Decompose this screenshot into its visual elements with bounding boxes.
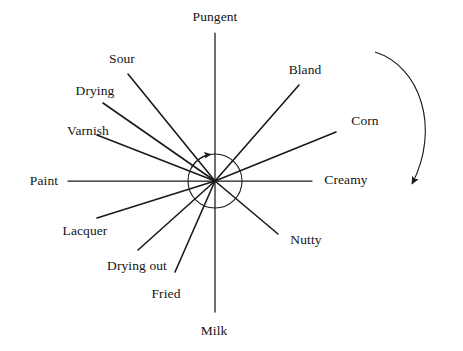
spoke-line-sour [128,74,215,181]
axis-label-pungent: Pungent [193,10,238,24]
axis-label-paint: Paint [30,174,58,188]
axis-label-sour: Sour [109,52,135,66]
spoke-line-lacquer [97,181,215,218]
clockwise-rotation-arrow-icon [375,52,425,184]
axis-label-milk: Milk [201,324,228,338]
spoke-line-nutty [215,181,278,234]
axis-label-fried: Fried [152,287,181,301]
axis-label-corn: Corn [351,114,378,128]
diagram-canvas [0,0,463,351]
spoke-line-corn [215,132,336,181]
spoke-line-bland [215,85,299,181]
axis-label-drying-out: Drying out [107,259,167,273]
axis-label-lacquer: Lacquer [63,224,108,238]
axis-label-creamy: Creamy [324,173,367,187]
axis-label-varnish: Varnish [67,124,109,138]
axis-label-nutty: Nutty [290,233,321,247]
axis-label-bland: Bland [289,63,322,77]
spoke-line-drying-out [138,181,215,250]
radial-attribute-diagram: PungentSourDryingVarnishPaintLacquerDryi… [0,0,463,351]
axis-label-drying: Drying [76,84,115,98]
spoke-line-drying [103,103,215,181]
spoke-line-fried [175,181,215,272]
